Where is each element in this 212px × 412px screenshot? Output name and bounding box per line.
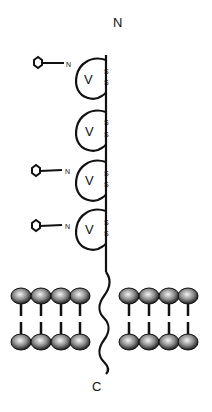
- ig-domain-4: V S S N: [32, 210, 109, 250]
- disulfide-s2: S: [104, 79, 109, 86]
- glycan-3: N: [32, 165, 70, 176]
- disulfide-s2: S: [104, 230, 109, 237]
- glycan-site-label: N: [65, 168, 70, 175]
- disulfide-s2: S: [104, 131, 109, 138]
- domain-label: V: [85, 124, 94, 139]
- lipid-bilayer-left: [11, 288, 90, 350]
- lipid-column: [70, 288, 90, 350]
- protein-topology-diagram: N V S S N V S S V S S: [0, 0, 212, 412]
- glycan-1: N: [34, 57, 71, 68]
- diagram-canvas: N V S S N V S S V S S: [0, 0, 212, 412]
- c-terminus-label: C: [92, 379, 101, 394]
- glycan-site-label: N: [66, 61, 71, 68]
- lipid-column: [178, 288, 198, 350]
- glycan-hexagon-icon: [32, 220, 40, 231]
- lipid-column: [51, 288, 71, 350]
- transmembrane-segment: [100, 272, 110, 374]
- disulfide-s2: S: [104, 181, 109, 188]
- lipid-bilayer-right: [119, 288, 198, 350]
- lipid-column: [11, 288, 31, 350]
- disulfide-s1: S: [104, 170, 109, 177]
- disulfide-s1: S: [104, 119, 109, 126]
- ig-domain-1: V S S N: [34, 57, 109, 99]
- lipid-column: [139, 288, 159, 350]
- domain-label: V: [84, 72, 93, 87]
- glycan-site-label: N: [65, 223, 70, 230]
- glycan-linker: [40, 170, 62, 171]
- lipid-column: [31, 288, 51, 350]
- glycan-linker: [40, 225, 62, 226]
- ig-domain-2: V S S: [76, 111, 109, 151]
- disulfide-s1: S: [104, 219, 109, 226]
- domain-label: V: [85, 222, 94, 237]
- glycan-4: N: [32, 220, 70, 231]
- glycan-hexagon-icon: [32, 165, 40, 176]
- n-terminus-label: N: [113, 15, 122, 30]
- glycan-hexagon-icon: [34, 57, 42, 68]
- lipid-column: [159, 288, 179, 350]
- disulfide-s1: S: [104, 68, 109, 75]
- ig-domain-3: V S S N: [32, 161, 109, 201]
- lipid-column: [119, 288, 139, 350]
- domain-label: V: [85, 173, 94, 188]
